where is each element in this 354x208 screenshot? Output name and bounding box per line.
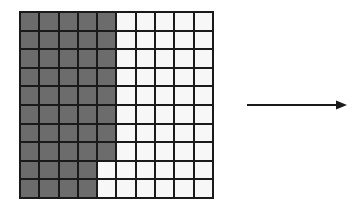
grid-cell-shaded — [40, 87, 57, 104]
grid-cell-empty — [156, 69, 173, 86]
grid-cell-shaded — [60, 50, 77, 67]
grid-cell-shaded — [60, 180, 77, 197]
grid-cell-empty — [175, 180, 192, 197]
grid-cell-empty — [195, 50, 212, 67]
grid-cell-empty — [137, 50, 154, 67]
grid-cell-shaded — [21, 87, 38, 104]
grid-cell-shaded — [79, 143, 96, 160]
grid-cell-empty — [137, 180, 154, 197]
grid-cell-shaded — [40, 13, 57, 30]
grid-cell-empty — [195, 143, 212, 160]
grid-cell-shaded — [60, 162, 77, 179]
grid-cell-shaded — [40, 106, 57, 123]
grid-cell-empty — [175, 69, 192, 86]
grid-cell-shaded — [60, 32, 77, 49]
grid-cell-shaded — [21, 180, 38, 197]
grid-cell-shaded — [60, 143, 77, 160]
grid-cell-empty — [156, 125, 173, 142]
grid-cell-empty — [156, 50, 173, 67]
grid-cell-empty — [175, 32, 192, 49]
grid-cell-shaded — [60, 106, 77, 123]
grid-cell-shaded — [21, 69, 38, 86]
grid-cell-empty — [117, 125, 134, 142]
grid-cell-empty — [195, 32, 212, 49]
grid-cell-shaded — [21, 143, 38, 160]
grid-cell-shaded — [40, 125, 57, 142]
grid-cell-empty — [156, 106, 173, 123]
grid-cell-empty — [175, 125, 192, 142]
grid-cell-shaded — [21, 32, 38, 49]
grid-cell-shaded — [79, 162, 96, 179]
grid-cell-shaded — [79, 125, 96, 142]
grid-cell-shaded — [98, 125, 115, 142]
grid-cell-shaded — [40, 143, 57, 160]
grid-cell-shaded — [79, 106, 96, 123]
grid-cell-empty — [117, 69, 134, 86]
grid-cell-empty — [156, 32, 173, 49]
grid-cell-empty — [156, 162, 173, 179]
grid-cell-empty — [195, 125, 212, 142]
grid-cell-shaded — [40, 162, 57, 179]
grid-cell-empty — [156, 87, 173, 104]
grid-cell-shaded — [40, 180, 57, 197]
grid-cell-shaded — [79, 87, 96, 104]
grid-cell-empty — [98, 162, 115, 179]
grid-cell-shaded — [60, 87, 77, 104]
grid-cell-empty — [156, 180, 173, 197]
grid-cell-empty — [137, 143, 154, 160]
grid-cell-empty — [117, 87, 134, 104]
grid-cell-empty — [175, 106, 192, 123]
grid-cell-empty — [117, 143, 134, 160]
grid-cell-empty — [175, 162, 192, 179]
grid-cell-shaded — [40, 32, 57, 49]
grid-cell-shaded — [79, 50, 96, 67]
grid-cell-shaded — [40, 69, 57, 86]
grid-cell-empty — [195, 69, 212, 86]
grid-cell-empty — [117, 32, 134, 49]
grid-cell-shaded — [60, 125, 77, 142]
right-arrow-icon — [246, 99, 348, 111]
grid-cell-empty — [137, 69, 154, 86]
grid-cell-empty — [137, 106, 154, 123]
grid-cell-shaded — [98, 13, 115, 30]
grid-cell-shaded — [79, 69, 96, 86]
grid-cell-shaded — [79, 13, 96, 30]
grid-cell-empty — [117, 106, 134, 123]
grid-cell-empty — [117, 50, 134, 67]
grid-cell-empty — [195, 87, 212, 104]
grid-cell-empty — [195, 13, 212, 30]
grid-cell-empty — [98, 180, 115, 197]
grid-cell-empty — [175, 50, 192, 67]
grid-cell-empty — [156, 13, 173, 30]
grid-cell-empty — [175, 87, 192, 104]
grid-cell-shaded — [98, 32, 115, 49]
grid-cell-shaded — [98, 106, 115, 123]
grid-cell-empty — [117, 180, 134, 197]
grid-cell-shaded — [98, 143, 115, 160]
grid-cell-shaded — [60, 13, 77, 30]
grid-cell-empty — [137, 13, 154, 30]
grid-cell-empty — [175, 143, 192, 160]
grid-cell-empty — [175, 13, 192, 30]
grid-cell-shaded — [60, 69, 77, 86]
grid-cell-shaded — [21, 162, 38, 179]
grid-cell-empty — [195, 162, 212, 179]
grid-cell-empty — [117, 162, 134, 179]
grid-cell-shaded — [21, 13, 38, 30]
grid-cell-shaded — [98, 87, 115, 104]
grid-cell-empty — [195, 180, 212, 197]
grid-cell-empty — [156, 143, 173, 160]
grid-cell-empty — [137, 125, 154, 142]
grid-cell-shaded — [79, 32, 96, 49]
grid-cell-shaded — [98, 69, 115, 86]
grid-cell-empty — [137, 87, 154, 104]
grid-cell-shaded — [40, 50, 57, 67]
grid-cell-empty — [137, 162, 154, 179]
grid-cell-shaded — [79, 180, 96, 197]
grid-cell-shaded — [98, 50, 115, 67]
grid-cell-shaded — [21, 50, 38, 67]
grid-cell-empty — [117, 13, 134, 30]
grid-cell-shaded — [21, 125, 38, 142]
grid-cell-empty — [195, 106, 212, 123]
hundred-grid — [19, 11, 214, 199]
